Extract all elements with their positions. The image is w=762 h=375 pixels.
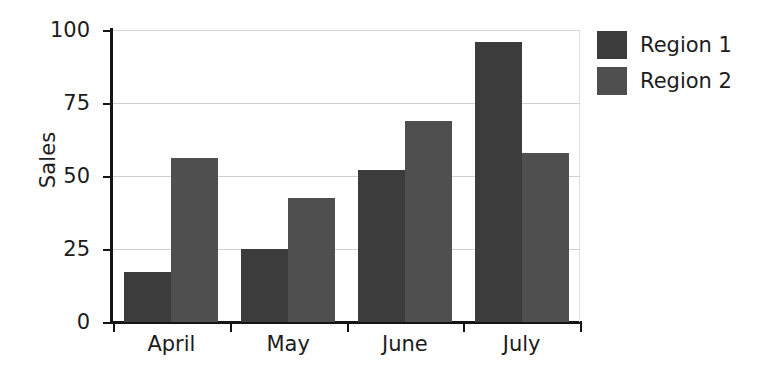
bar-june-region-1[interactable] (358, 170, 405, 322)
grid-line-100 (113, 30, 580, 31)
y-tick-mark-75 (103, 103, 111, 105)
bar-may-region-1[interactable] (241, 249, 288, 322)
x-tick-label-may: May (266, 332, 309, 356)
y-tick-label-50: 50 (30, 166, 90, 187)
x-tick-label-april: April (147, 332, 195, 356)
x-tick-label-june: June (382, 332, 428, 356)
x-tick-mark-july (463, 324, 465, 332)
legend-swatch-region-2 (597, 67, 627, 95)
bar-april-region-1[interactable] (124, 272, 171, 322)
x-tick-label-july: July (503, 332, 541, 356)
y-tick-mark-25 (103, 249, 111, 251)
y-tick-label-75: 75 (30, 93, 90, 114)
y-axis-title: Sales (36, 100, 60, 220)
x-tick-mark-april (113, 324, 115, 332)
x-tick-mark-june (347, 324, 349, 332)
y-tick-mark-50 (103, 176, 111, 178)
legend-item-region-1[interactable]: Region 1 (597, 27, 732, 63)
y-tick-mark-100 (103, 30, 111, 32)
bar-july-region-2[interactable] (522, 153, 569, 322)
bar-april-region-2[interactable] (171, 158, 218, 322)
legend-swatch-region-1 (597, 31, 627, 59)
bar-may-region-2[interactable] (288, 198, 335, 322)
chart-legend: Region 1Region 2 (597, 27, 732, 99)
legend-label-region-2: Region 2 (640, 69, 732, 93)
x-tick-mark-may (230, 324, 232, 332)
bar-july-region-1[interactable] (475, 42, 522, 322)
bar-chart: Sales 0255075100 AprilMayJuneJuly Region… (0, 0, 762, 375)
legend-item-region-2[interactable]: Region 2 (597, 63, 732, 99)
y-tick-label-0: 0 (30, 312, 90, 333)
plot-area (113, 30, 580, 322)
y-tick-label-25: 25 (30, 239, 90, 260)
y-tick-label-100: 100 (30, 20, 90, 41)
bar-june-region-2[interactable] (405, 121, 452, 322)
y-tick-mark-0 (103, 322, 111, 324)
x-tick-mark-end (580, 324, 582, 332)
legend-label-region-1: Region 1 (640, 33, 732, 57)
